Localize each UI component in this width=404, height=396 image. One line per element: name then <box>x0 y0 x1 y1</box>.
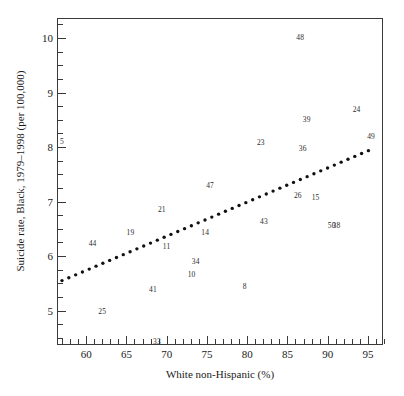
trend-line-dot <box>367 149 370 152</box>
x-tick-minor <box>78 339 79 344</box>
y-tick-minor <box>58 270 63 271</box>
x-tick-major <box>247 336 248 344</box>
x-tick-minor <box>94 339 95 344</box>
y-tick-label: 5 <box>48 305 54 316</box>
data-point-label: 5 <box>60 138 64 146</box>
trend-line-dot <box>346 158 349 161</box>
x-tick-label: 90 <box>322 349 333 360</box>
trend-line-dot <box>251 198 254 201</box>
x-tick-minor <box>62 339 63 344</box>
data-point-label: 36 <box>299 146 307 154</box>
trend-line-dot <box>115 256 118 259</box>
x-tick-minor <box>271 339 272 344</box>
y-tick-minor <box>58 133 63 134</box>
trend-line-dot <box>190 224 193 227</box>
scatter-plot-figure: 5678910 6065707580859095 544251941332111… <box>0 0 404 396</box>
data-point-label: 26 <box>294 192 302 200</box>
trend-line-dot <box>217 212 220 215</box>
x-tick-minor <box>295 339 296 344</box>
trend-line-dot <box>176 230 179 233</box>
trend-line-dot <box>265 192 268 195</box>
trend-line-dot <box>149 241 152 244</box>
plot-area: 5678910 6065707580859095 544251941332111… <box>57 18 383 345</box>
y-tick-minor <box>58 79 63 80</box>
trend-line-dot <box>258 195 261 198</box>
x-tick-label: 75 <box>201 349 212 360</box>
trend-line-dot <box>237 204 240 207</box>
x-tick-minor <box>110 339 111 344</box>
y-tick-minor <box>58 283 63 284</box>
trend-line-dot <box>142 244 145 247</box>
x-tick-major <box>328 336 329 344</box>
y-tick-minor <box>58 65 63 66</box>
data-point-label: 49 <box>367 134 375 142</box>
trend-line-dot <box>108 259 111 262</box>
trend-line-dot <box>360 152 363 155</box>
trend-line-dot <box>122 253 125 256</box>
x-tick-minor <box>376 339 377 344</box>
x-tick-major <box>167 336 168 344</box>
y-tick-label: 8 <box>48 142 54 153</box>
x-tick-minor <box>336 339 337 344</box>
trend-line-dot <box>74 273 77 276</box>
trend-line-dot <box>81 270 84 273</box>
trend-line-dot <box>271 189 274 192</box>
data-point-label: 25 <box>98 308 106 316</box>
x-tick-label: 85 <box>282 349 293 360</box>
trend-line-dot <box>312 172 315 175</box>
y-tick-minor <box>58 120 63 121</box>
trend-line-dot <box>224 210 227 213</box>
x-tick-minor <box>255 339 256 344</box>
x-tick-minor <box>312 339 313 344</box>
data-point-label: 19 <box>126 229 134 237</box>
data-point-label: 11 <box>163 244 171 252</box>
data-point-label: 21 <box>158 207 166 215</box>
y-tick-label: 7 <box>48 196 54 207</box>
x-tick-minor <box>199 339 200 344</box>
x-tick-minor <box>239 339 240 344</box>
x-tick-minor <box>263 339 264 344</box>
trend-line-dot <box>333 163 336 166</box>
data-point-label: 34 <box>192 258 200 266</box>
y-tick-minor <box>58 297 63 298</box>
data-point-label: 39 <box>303 116 311 124</box>
x-tick-major <box>368 336 369 344</box>
trend-line-dot <box>299 178 302 181</box>
x-axis-title: White non-Hispanic (%) <box>57 368 383 380</box>
data-point-label: 47 <box>206 183 214 191</box>
x-tick-major <box>207 336 208 344</box>
y-tick-major <box>58 147 66 148</box>
x-tick-minor <box>183 339 184 344</box>
trend-line-dot <box>162 236 165 239</box>
trend-line-dot <box>339 160 342 163</box>
x-tick-minor <box>360 339 361 344</box>
y-tick-minor <box>58 52 63 53</box>
trend-line-dot <box>183 227 186 230</box>
x-tick-minor <box>223 339 224 344</box>
x-tick-minor <box>384 339 385 344</box>
x-tick-minor <box>175 339 176 344</box>
y-tick-minor <box>58 324 63 325</box>
trend-line-dot <box>196 221 199 224</box>
x-tick-minor <box>70 339 71 344</box>
data-point-label: 10 <box>188 271 196 279</box>
trend-line-dot <box>278 186 281 189</box>
x-tick-major <box>126 336 127 344</box>
y-tick-major <box>58 38 66 39</box>
trend-line-dot <box>353 155 356 158</box>
x-tick-label: 95 <box>362 349 373 360</box>
trend-line-dot <box>94 264 97 267</box>
y-tick-minor <box>58 188 63 189</box>
trend-line-dot <box>326 166 329 169</box>
x-tick-label: 65 <box>121 349 132 360</box>
y-tick-label: 10 <box>42 33 53 44</box>
y-tick-minor <box>58 174 63 175</box>
x-tick-minor <box>143 339 144 344</box>
y-tick-major <box>58 256 66 257</box>
x-tick-minor <box>320 339 321 344</box>
x-tick-major <box>287 336 288 344</box>
trend-line-dot <box>210 215 213 218</box>
trend-line-dot <box>305 175 308 178</box>
y-tick-major <box>58 202 66 203</box>
y-tick-minor <box>58 106 63 107</box>
